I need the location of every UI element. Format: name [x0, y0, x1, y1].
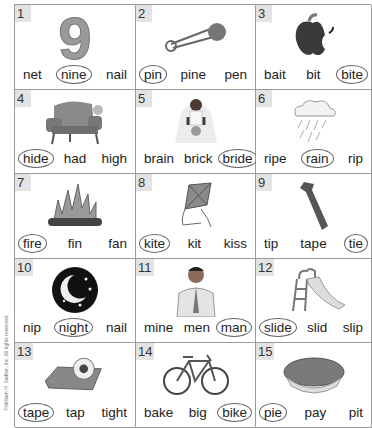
- item-9: 9 tip tape tie: [256, 174, 372, 259]
- item-8: 8 kite kit kiss: [136, 174, 256, 259]
- item-number: 9: [256, 174, 272, 191]
- item-15: 15 pie pay pit: [256, 343, 372, 428]
- item-number: 7: [15, 174, 31, 191]
- item-1: 1 9 net nine nail: [15, 5, 136, 90]
- word-option[interactable]: nip: [18, 318, 46, 337]
- word-option[interactable]: kiss: [219, 234, 252, 253]
- bicycle-icon: [161, 349, 231, 399]
- word-option[interactable]: fin: [63, 234, 87, 253]
- word-option[interactable]: slid: [302, 318, 332, 337]
- word-choices: fire fin fan: [18, 234, 132, 253]
- word-option[interactable]: tape: [295, 234, 331, 253]
- word-option[interactable]: nail: [101, 65, 132, 84]
- word-option[interactable]: pay: [299, 403, 331, 422]
- word-option[interactable]: bit: [301, 65, 325, 84]
- item-number: 15: [256, 343, 274, 360]
- word-option[interactable]: bake: [139, 403, 178, 422]
- word-option[interactable]: pit: [344, 403, 368, 422]
- word-option-circled[interactable]: bride: [218, 149, 258, 168]
- night-moon-icon: [40, 265, 110, 315]
- word-choices: brain brick bride: [139, 149, 252, 168]
- pie-icon: [279, 349, 349, 399]
- word-option-circled[interactable]: bite: [336, 65, 368, 84]
- item-number: 11: [136, 259, 154, 276]
- word-option[interactable]: mine: [139, 318, 178, 337]
- safety-pin-icon: [161, 11, 231, 61]
- word-choices: nip night nail: [18, 318, 132, 337]
- word-option-circled[interactable]: nine: [56, 65, 92, 84]
- word-option[interactable]: tip: [259, 234, 283, 253]
- svg-text:9: 9: [58, 9, 91, 63]
- item-number: 8: [136, 174, 152, 191]
- item-11: 11 mine men man: [136, 259, 256, 344]
- item-number: 4: [15, 90, 31, 107]
- worksheet-grid: 1 9 net nine nail 2 pin pine pen 3 bait …: [14, 4, 371, 427]
- word-choices: tip tape tie: [259, 234, 368, 253]
- item-10: 10 nip night nail: [15, 259, 136, 344]
- word-option[interactable]: slip: [338, 318, 368, 337]
- word-option[interactable]: nail: [101, 318, 132, 337]
- word-option-circled[interactable]: bike: [217, 403, 252, 422]
- word-choices: pin pine pen: [139, 65, 252, 84]
- word-option[interactable]: pen: [219, 65, 252, 84]
- item-number: 6: [256, 90, 272, 107]
- word-option[interactable]: tight: [96, 403, 132, 422]
- word-option-circled[interactable]: fire: [18, 234, 47, 253]
- word-option-circled[interactable]: man: [216, 318, 252, 337]
- word-option[interactable]: bait: [259, 65, 291, 84]
- tape-dispenser-icon: [40, 349, 110, 399]
- word-option[interactable]: pine: [175, 65, 211, 84]
- copyright-notice: ©William H. Sadlier, Inc. All rights res…: [1, 300, 11, 425]
- word-option[interactable]: tap: [61, 403, 90, 422]
- item-number: 14: [136, 343, 154, 360]
- word-option[interactable]: fan: [103, 234, 132, 253]
- man-icon: [161, 265, 231, 315]
- word-choices: net nine nail: [18, 65, 132, 84]
- item-number: 1: [15, 5, 31, 22]
- word-option-circled[interactable]: pie: [259, 403, 287, 422]
- word-option[interactable]: high: [96, 149, 132, 168]
- word-choices: bait bit bite: [259, 65, 368, 84]
- item-6: 6 ripe rain rip: [256, 90, 372, 175]
- item-number: 5: [136, 90, 152, 107]
- item-14: 14 bake big bike: [136, 343, 256, 428]
- item-number: 13: [15, 343, 33, 360]
- word-choices: tape tap tight: [18, 403, 132, 422]
- bitten-apple-icon: [279, 11, 349, 61]
- copyright-text: ©William H. Sadlier, Inc. All rights res…: [3, 314, 9, 410]
- necktie-icon: [279, 180, 349, 230]
- item-4: 4 hide had high: [15, 90, 136, 175]
- item-number: 12: [256, 259, 274, 276]
- item-13: 13 tape tap tight: [15, 343, 136, 428]
- word-option[interactable]: ripe: [259, 149, 292, 168]
- word-option-circled[interactable]: slide: [259, 318, 297, 337]
- item-12: 12 slide slid slip: [256, 259, 372, 344]
- item-2: 2 pin pine pen: [136, 5, 256, 90]
- word-option[interactable]: had: [59, 149, 92, 168]
- word-option-circled[interactable]: night: [54, 318, 93, 337]
- word-choices: slide slid slip: [259, 318, 368, 337]
- word-option[interactable]: rip: [343, 149, 368, 168]
- word-option-circled[interactable]: tape: [18, 403, 54, 422]
- word-option[interactable]: big: [184, 403, 212, 422]
- word-option-circled[interactable]: rain: [301, 149, 334, 168]
- word-choices: hide had high: [18, 149, 132, 168]
- item-3: 3 bait bit bite: [256, 5, 372, 90]
- word-option-circled[interactable]: kite: [139, 234, 170, 253]
- word-option[interactable]: kit: [183, 234, 207, 253]
- word-option[interactable]: men: [179, 318, 215, 337]
- word-choices: bake big bike: [139, 403, 252, 422]
- item-5: 5 brain brick bride: [136, 90, 256, 175]
- kite-icon: [161, 180, 231, 230]
- item-number: 2: [136, 5, 152, 22]
- word-choices: kite kit kiss: [139, 234, 252, 253]
- word-option-circled[interactable]: tie: [344, 234, 368, 253]
- slide-icon: [279, 265, 349, 315]
- word-choices: pie pay pit: [259, 403, 368, 422]
- word-option[interactable]: net: [18, 65, 47, 84]
- item-number: 10: [15, 259, 33, 276]
- word-option[interactable]: brick: [179, 149, 218, 168]
- word-option-circled[interactable]: pin: [139, 65, 167, 84]
- word-option-circled[interactable]: hide: [18, 149, 54, 168]
- word-option[interactable]: brain: [139, 149, 179, 168]
